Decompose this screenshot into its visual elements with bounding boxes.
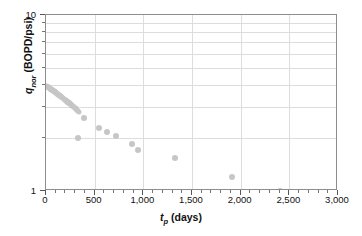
x-tick-label-1500: 1,500 (179, 194, 203, 205)
gridline-y-8 (46, 32, 336, 33)
data-point (229, 174, 235, 180)
y-tick-label-1: 1 (31, 185, 36, 196)
y-tick-minor-6 (42, 53, 45, 54)
x-tick-minor-2400 (279, 190, 280, 193)
x-tick-minor-800 (123, 190, 124, 193)
gridline-y-3 (46, 107, 336, 108)
x-tick-minor-1600 (201, 190, 202, 193)
x-tick-label-2500: 2,500 (276, 194, 300, 205)
x-axis-title: tp (days) (0, 211, 362, 226)
gridline-y-7 (46, 42, 336, 43)
data-point (172, 155, 178, 161)
x-tick-label-2000: 2,000 (228, 194, 252, 205)
x-tick-minor-1900 (230, 190, 231, 193)
y-axis-symbol: q (22, 88, 34, 94)
data-point (81, 115, 87, 121)
x-tick-minor-2200 (259, 190, 260, 193)
x-tick-label-0: 0 (42, 194, 47, 205)
x-tick-label-1000: 1,000 (130, 194, 154, 205)
x-tick-minor-1300 (172, 190, 173, 193)
data-point (129, 141, 135, 147)
y-tick-major-10 (40, 14, 45, 15)
data-point (76, 109, 81, 114)
gridline-x-500 (95, 15, 96, 189)
gridline-x-2000 (241, 15, 242, 189)
gridline-y-9 (46, 23, 336, 24)
x-tick-minor-2900 (327, 190, 328, 193)
x-tick-minor-200 (64, 190, 65, 193)
plot-area (45, 14, 337, 190)
gridline-y-4 (46, 85, 336, 86)
y-axis-subscript: nor (29, 75, 38, 87)
x-tick-minor-2600 (298, 190, 299, 193)
y-tick-minor-4 (42, 84, 45, 85)
gridline-y-6 (46, 54, 336, 55)
y-tick-minor-5 (42, 67, 45, 68)
gridline-x-2500 (289, 15, 290, 189)
y-tick-minor-9 (42, 22, 45, 23)
data-point (96, 125, 102, 131)
y-tick-major-1 (40, 190, 45, 191)
x-tick-minor-900 (133, 190, 134, 193)
data-point (113, 133, 119, 139)
y-tick-minor-7 (42, 41, 45, 42)
x-tick-minor-2700 (308, 190, 309, 193)
x-tick-minor-100 (55, 190, 56, 193)
x-tick-minor-700 (113, 190, 114, 193)
x-tick-minor-400 (84, 190, 85, 193)
x-tick-label-500: 500 (86, 194, 102, 205)
gridline-y-2 (46, 138, 336, 139)
data-point (135, 147, 141, 153)
x-axis-subscript: p (164, 217, 169, 226)
y-axis-title: qnor (BOPD/psi) (22, 0, 37, 136)
y-tick-minor-3 (42, 106, 45, 107)
x-tick-minor-2800 (318, 190, 319, 193)
x-tick-label-3000: 3,000 (325, 194, 349, 205)
x-tick-minor-1800 (220, 190, 221, 193)
x-tick-minor-2100 (249, 190, 250, 193)
x-tick-minor-300 (74, 190, 75, 193)
data-point (104, 129, 110, 135)
y-tick-minor-2 (42, 137, 45, 138)
x-tick-minor-600 (103, 190, 104, 193)
x-axis-unit: (days) (171, 211, 202, 223)
gridline-x-1500 (192, 15, 193, 189)
x-tick-minor-1100 (152, 190, 153, 193)
x-tick-minor-1700 (210, 190, 211, 193)
chart-container: 05001,0001,5002,0002,5003,000 110 tp (da… (0, 0, 362, 236)
x-tick-minor-1200 (162, 190, 163, 193)
y-axis-unit: (BOPD/psi) (22, 17, 34, 72)
gridline-y-5 (46, 68, 336, 69)
x-tick-minor-1400 (181, 190, 182, 193)
data-point (75, 135, 81, 141)
y-tick-minor-8 (42, 31, 45, 32)
x-tick-minor-2300 (269, 190, 270, 193)
gridline-x-1000 (143, 15, 144, 189)
